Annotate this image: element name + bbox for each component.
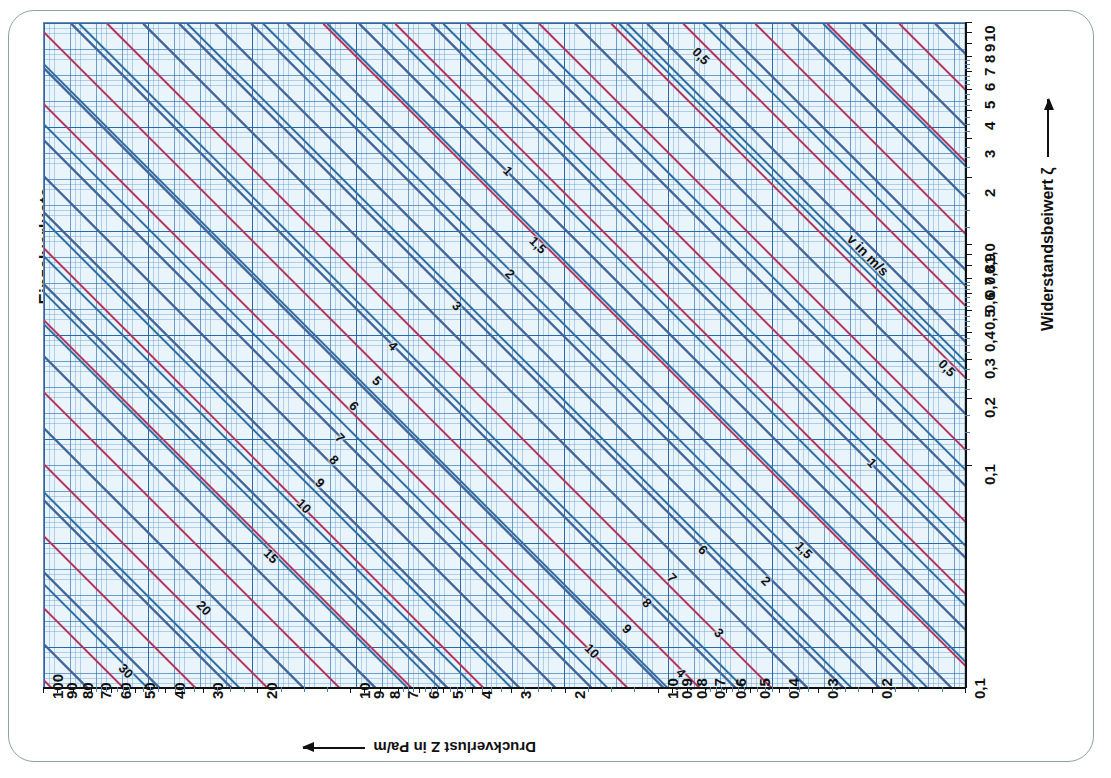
- x-tick-minor: [106, 687, 107, 692]
- x-tick-minor: [431, 687, 432, 692]
- x-tick-label: 30: [209, 682, 226, 699]
- y-tick-minor: [965, 68, 970, 69]
- x-tick-minor: [101, 687, 102, 692]
- x-tick-minor: [457, 687, 458, 692]
- x-tick-label: 9: [370, 691, 387, 699]
- x-tick-label: 0,3: [824, 678, 841, 699]
- x-tick: [687, 687, 688, 693]
- x-tick-label: 20: [263, 682, 280, 699]
- x-tick-minor: [304, 687, 305, 692]
- x-tick: [672, 687, 673, 693]
- y-tick-minor: [965, 99, 970, 100]
- y-tick-minor: [965, 352, 970, 353]
- y-tick-minor: [965, 131, 970, 132]
- x-tick-label: 90: [63, 682, 80, 699]
- y-tick-minor: [965, 84, 970, 85]
- y-tick: [965, 110, 972, 111]
- nomogram-page: Einzelverluste 30201510987654321,510,510…: [0, 0, 1111, 778]
- line-label: v in m/s: [844, 231, 892, 279]
- line-label: 30: [116, 661, 137, 682]
- y-tick-minor: [965, 415, 970, 416]
- y-tick-minor: [965, 64, 970, 65]
- line-label: 8: [639, 595, 655, 611]
- y-tick-minor: [965, 124, 970, 125]
- x-axis-arrow-icon: [303, 747, 365, 749]
- y-tick: [965, 265, 972, 266]
- x-tick-minor: [327, 687, 328, 692]
- x-tick-minor: [96, 687, 97, 692]
- x-tick-minor: [942, 687, 943, 692]
- y-tick: [965, 310, 972, 311]
- y-tick-label: 9: [981, 44, 998, 52]
- x-tick-minor: [482, 687, 483, 692]
- y-tick: [965, 293, 972, 294]
- x-tick-minor: [538, 687, 539, 692]
- line-label: 7: [664, 570, 680, 586]
- x-tick-label: 0,1: [971, 678, 988, 699]
- x-tick-minor: [732, 687, 733, 692]
- x-tick-label: 2: [571, 691, 588, 699]
- x-tick-minor: [413, 687, 414, 692]
- x-tick-minor: [895, 687, 896, 692]
- x-tick: [398, 687, 399, 693]
- x-tick-minor: [129, 687, 130, 692]
- y-tick-label: 0,3: [981, 358, 998, 379]
- x-tick: [364, 687, 365, 693]
- y-tick-label: 5: [981, 100, 998, 108]
- line-label: 3: [449, 298, 465, 314]
- line-label: 1: [864, 455, 880, 471]
- x-tick-minor: [230, 687, 231, 692]
- line-label: 1: [500, 163, 516, 179]
- y-tick-minor: [965, 285, 970, 286]
- x-tick-label: 0,6: [732, 678, 749, 699]
- y-tick-minor: [965, 297, 970, 298]
- x-tick-minor: [175, 687, 176, 692]
- line-label: 10: [294, 496, 315, 517]
- x-tick-minor: [772, 687, 773, 692]
- x-tick-minor: [611, 687, 612, 692]
- line-label: 1,5: [526, 233, 549, 256]
- line-label: 4: [385, 338, 401, 354]
- line-label: 7: [332, 430, 348, 446]
- x-tick: [203, 687, 204, 693]
- x-tick: [419, 687, 420, 693]
- y-tick: [965, 32, 972, 33]
- x-tick-minor: [425, 687, 426, 692]
- y-tick: [965, 398, 972, 399]
- y-tick: [965, 43, 972, 44]
- x-tick-minor: [832, 687, 833, 692]
- y-tick: [965, 278, 972, 279]
- x-tick-label: 0,4: [785, 678, 802, 699]
- x-tick-minor: [450, 687, 451, 692]
- y-tick: [965, 244, 972, 245]
- x-tick-minor: [437, 687, 438, 692]
- y-tick-minor: [965, 369, 970, 370]
- x-tick-minor: [799, 687, 800, 692]
- x-tick: [472, 687, 473, 693]
- x-tick-minor: [588, 687, 589, 692]
- y-tick-minor: [965, 321, 970, 322]
- line-label: 2: [758, 573, 774, 589]
- y-tick: [965, 138, 972, 139]
- x-tick-minor: [634, 687, 635, 692]
- line-label: 8: [326, 452, 342, 468]
- line-label: 1,5: [792, 538, 815, 561]
- y-tick-minor: [965, 316, 970, 317]
- x-tick-minor: [150, 687, 151, 692]
- x-tick: [705, 687, 706, 693]
- y-tick-minor: [965, 389, 970, 390]
- x-tick-minor: [281, 687, 282, 692]
- y-tick-minor: [965, 282, 970, 283]
- x-tick: [872, 687, 873, 693]
- y-tick-minor: [965, 449, 970, 450]
- x-tick: [165, 687, 166, 693]
- x-tick-minor: [524, 687, 525, 692]
- y-tick-minor: [965, 289, 970, 290]
- x-tick: [73, 687, 74, 693]
- line-label: 5: [369, 373, 385, 389]
- x-tick-label: 40: [171, 682, 188, 699]
- line-label: 9: [312, 475, 328, 491]
- line-label: 10: [582, 641, 603, 662]
- x-tick: [380, 687, 381, 693]
- y-tick-minor: [965, 117, 970, 118]
